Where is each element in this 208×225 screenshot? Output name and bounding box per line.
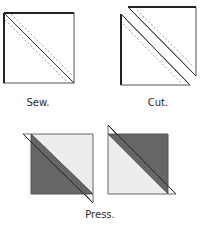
half-square-triangle-diagram xyxy=(0,0,208,225)
press-square-left xyxy=(23,134,93,203)
sew-label: Sew. xyxy=(8,97,68,109)
sew-square xyxy=(4,13,74,83)
press-label: Press. xyxy=(70,209,130,221)
press-square-right xyxy=(108,125,176,194)
cut-label: Cut. xyxy=(128,97,188,109)
